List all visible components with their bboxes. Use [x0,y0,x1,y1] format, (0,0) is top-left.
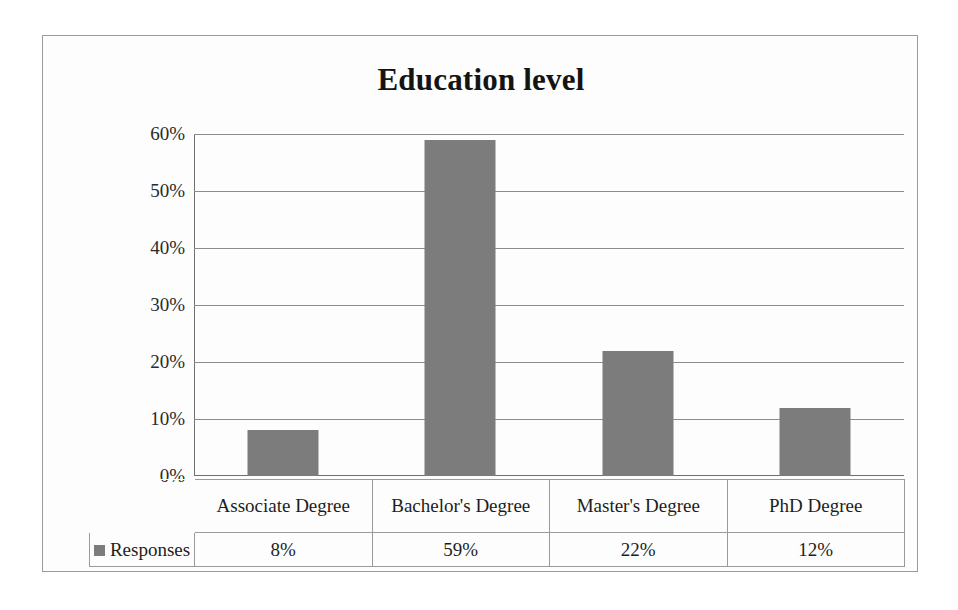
plot-area [194,134,904,476]
chart-frame: Education level 60% 50% 40% 30% 20% 10% … [42,35,918,572]
table-corner-cell [90,480,195,533]
bar-slot-phd-degree [727,134,905,476]
data-table: Associate Degree Bachelor's Degree Maste… [89,479,905,567]
legend-entry-responses[interactable]: Responses [90,533,195,567]
y-tick-60: 60% [125,123,185,145]
bar-phd-degree[interactable] [780,408,851,476]
chart-title: Education level [43,62,919,98]
y-tick-20: 20% [125,351,185,373]
value-cell-associate-degree: 8% [195,533,373,567]
bar-slot-associate-degree [194,134,372,476]
y-tick-10: 10% [125,408,185,430]
value-cell-bachelors-degree: 59% [372,533,550,567]
value-cell-masters-degree: 22% [550,533,728,567]
legend-swatch-icon [94,545,105,556]
legend-label: Responses [110,539,190,560]
value-cell-phd-degree: 12% [727,533,905,567]
category-cell-bachelors-degree: Bachelor's Degree [372,480,550,533]
table-row-responses: Responses 8% 59% 22% 12% [90,533,905,567]
bar-bachelors-degree[interactable] [425,140,496,476]
y-axis-tick-labels: 60% 50% 40% 30% 20% 10% 0% [123,134,185,476]
bar-slot-masters-degree [549,134,727,476]
y-tick-50: 50% [125,180,185,202]
bar-associate-degree[interactable] [247,430,318,476]
category-cell-masters-degree: Master's Degree [550,480,728,533]
y-tick-30: 30% [125,294,185,316]
table-row-categories: Associate Degree Bachelor's Degree Maste… [90,480,905,533]
category-cell-associate-degree: Associate Degree [195,480,373,533]
y-tick-40: 40% [125,237,185,259]
bar-masters-degree[interactable] [602,351,673,476]
category-cell-phd-degree: PhD Degree [727,480,905,533]
bar-slot-bachelors-degree [372,134,550,476]
